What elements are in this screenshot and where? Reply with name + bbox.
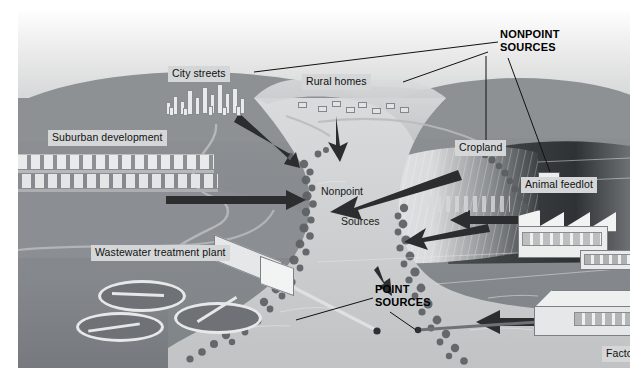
city-streets-buildings xyxy=(164,80,250,118)
label-animal-feedlot: Animal feedlot xyxy=(521,177,597,193)
figure-caption xyxy=(18,372,218,382)
heading-nonpoint-sources: NONPOINT SOURCES xyxy=(500,28,560,53)
label-city-streets: City streets xyxy=(168,66,230,82)
river-text-nonpoint: Nonpoint xyxy=(321,185,363,198)
figure-page: City streets Rural homes Suburban develo… xyxy=(0,0,643,388)
label-factory: Factory xyxy=(602,346,630,362)
label-suburban-development: Suburban development xyxy=(48,130,167,146)
heading-point-sources: POINT SOURCES xyxy=(375,283,431,308)
river-text-sources: Sources xyxy=(341,215,380,228)
animal-feedlot-pens xyxy=(428,196,510,212)
factory-building-upper xyxy=(510,210,630,282)
label-cropland: Cropland xyxy=(455,140,506,156)
rural-homes-cluster xyxy=(296,94,416,118)
factory-building-lower xyxy=(534,284,630,348)
label-rural-homes: Rural homes xyxy=(302,74,371,90)
label-wastewater-treatment-plant: Wastewater treatment plant xyxy=(91,245,230,261)
watershed-illustration: City streets Rural homes Suburban develo… xyxy=(18,12,630,368)
suburban-development-houses xyxy=(18,154,214,194)
